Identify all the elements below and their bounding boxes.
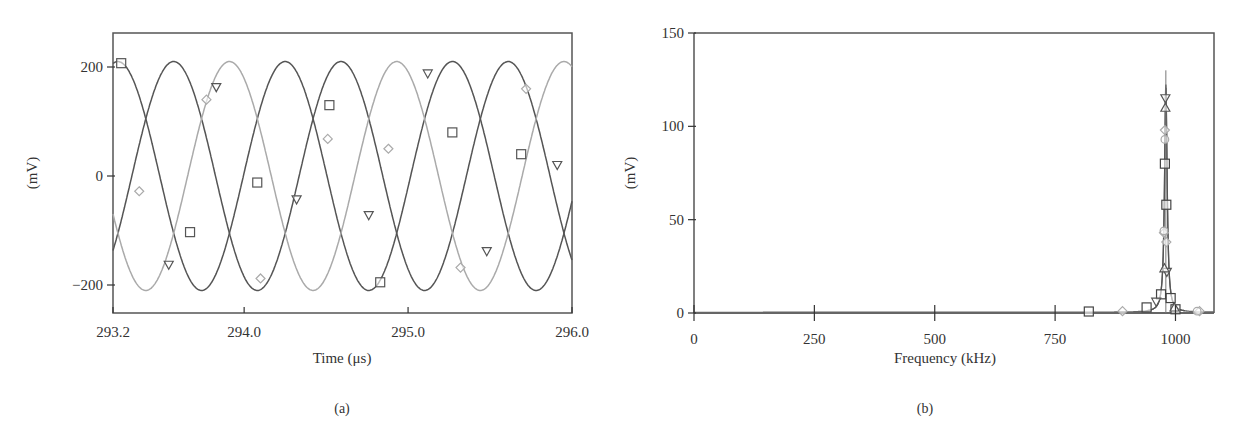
marker-diamond-icon (256, 274, 265, 283)
spectrum-markers (1084, 95, 1204, 316)
marker-triangle-down-icon (553, 162, 562, 170)
plot-frame-b (694, 33, 1214, 313)
waveform-line-triangle-down (113, 62, 572, 291)
marker-triangle-down-icon (164, 261, 173, 269)
chart-panel-a: 293.2294.0295.0296.0 −2000200 Time (μs) … (24, 33, 589, 417)
marker-square-icon (448, 128, 457, 137)
marker-square-icon (517, 150, 526, 159)
marker-diamond-icon (1160, 126, 1169, 135)
marker-diamond-icon (202, 95, 211, 104)
x-tick-label: 1000 (1160, 331, 1190, 347)
y-tick-label: 150 (662, 25, 685, 41)
waveform-line-diamond (113, 62, 572, 291)
marker-diamond-icon (522, 84, 531, 93)
y-axis-ticks-a: −2000200 (72, 59, 115, 293)
marker-diamond-icon (384, 144, 393, 153)
marker-triangle-down-icon (212, 84, 221, 92)
marker-diamond-icon (1118, 307, 1127, 316)
x-tick-label: 294.0 (227, 324, 261, 340)
y-tick-label: −200 (72, 277, 103, 293)
marker-square-icon (325, 101, 334, 110)
y-axis-ticks-b: 050100150 (662, 25, 697, 321)
marker-triangle-down-icon (1152, 298, 1161, 306)
marker-circle-icon (1193, 307, 1201, 315)
marker-square-icon (1166, 294, 1175, 303)
marker-square-icon (186, 228, 195, 237)
marker-triangle-down-icon (1161, 95, 1170, 103)
marker-square-icon (1084, 307, 1093, 316)
x-axis-title-b: Frequency (kHz) (894, 350, 996, 367)
x-axis-ticks-a: 293.2294.0295.0296.0 (96, 307, 589, 340)
marker-triangle-up-icon (1161, 103, 1170, 111)
panel-label-a: (a) (334, 401, 350, 417)
y-tick-label: 0 (677, 305, 685, 321)
marker-square-icon (1142, 303, 1151, 312)
y-axis-title-a: (mV) (24, 157, 41, 190)
marker-circle-icon (1160, 227, 1168, 235)
x-tick-label: 250 (803, 331, 826, 347)
marker-square-icon (376, 278, 385, 287)
y-tick-label: 200 (81, 59, 104, 75)
y-axis-title-b: (mV) (622, 157, 639, 190)
marker-square-icon (1162, 200, 1171, 209)
marker-diamond-icon (135, 187, 144, 196)
waveform-curves (113, 62, 572, 291)
marker-square-icon (253, 178, 262, 187)
x-tick-label: 295.0 (391, 324, 425, 340)
y-tick-label: 50 (669, 212, 684, 228)
marker-square-icon (1157, 290, 1166, 299)
marker-diamond-icon (323, 134, 332, 143)
plot-frame-a (113, 33, 572, 313)
x-tick-label: 750 (1044, 331, 1067, 347)
y-tick-label: 100 (662, 118, 685, 134)
x-tick-label: 0 (690, 331, 698, 347)
y-tick-label: 0 (96, 168, 104, 184)
spectrum-line (694, 88, 1214, 312)
marker-triangle-down-icon (482, 248, 491, 256)
chart-panel-b: 02505007501000 050100150 Frequency (kHz)… (622, 25, 1214, 417)
x-axis-title-a: Time (μs) (313, 350, 372, 367)
x-tick-label: 296.0 (555, 324, 589, 340)
spectrum-curves (694, 70, 1214, 313)
x-tick-label: 500 (923, 331, 946, 347)
waveform-line-square (113, 62, 572, 291)
panel-label-b: (b) (917, 401, 934, 417)
figure: 293.2294.0295.0296.0 −2000200 Time (μs) … (0, 0, 1236, 447)
x-tick-label: 293.2 (96, 324, 130, 340)
marker-triangle-down-icon (423, 70, 432, 78)
marker-square-icon (1160, 159, 1169, 168)
marker-triangle-down-icon (364, 212, 373, 220)
x-axis-ticks-b: 02505007501000 (690, 305, 1190, 347)
marker-circle-icon (1161, 136, 1169, 144)
marker-square-icon (117, 59, 126, 68)
waveform-markers (117, 59, 562, 287)
